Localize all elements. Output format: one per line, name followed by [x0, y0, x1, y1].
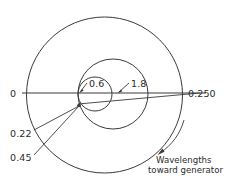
label-wavelength-0-22: 0.22	[10, 128, 32, 139]
smith-chart-canvas: 0 0.250 0.6 1.8 0.22 0.45 Wavelengths to…	[0, 0, 228, 182]
note-wavelengths-line1: Wavelengths	[156, 155, 212, 165]
direction-arrow-arc	[160, 120, 184, 153]
radial-line-0-22	[34, 106, 79, 130]
label-resistance-0-6: 0.6	[89, 78, 104, 89]
label-scale-quarter: 0.250	[188, 88, 216, 99]
label-wavelength-0-45: 0.45	[10, 152, 32, 163]
label-resistance-1-8: 1.8	[131, 78, 146, 89]
intersection-point-marker	[77, 104, 81, 108]
label-scale-zero: 0	[10, 88, 16, 99]
note-wavelengths-line2: toward generator	[148, 165, 223, 175]
radial-line-0-45	[34, 106, 79, 155]
smith-chart-figure: 0 0.250 0.6 1.8 0.22 0.45 Wavelengths to…	[0, 0, 228, 182]
constant-resistance-circle-1-8	[78, 59, 148, 129]
outer-unit-circle	[27, 17, 183, 173]
